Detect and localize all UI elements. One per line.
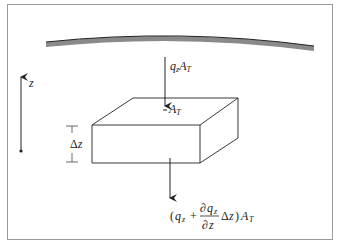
svg-text:z: z — [213, 207, 218, 216]
svg-text:T: T — [249, 215, 254, 224]
svg-text:z: z — [181, 215, 186, 224]
svg-text:q: q — [175, 209, 181, 223]
svg-text:z: z — [228, 209, 234, 223]
z-axis-label: z — [28, 76, 34, 90]
svg-text:z: z — [208, 218, 214, 232]
svg-text:(: ( — [170, 209, 174, 223]
thickness-label: Δz — [70, 137, 83, 151]
control-volume-box — [92, 98, 238, 163]
top-face-area-label: AT — [168, 102, 181, 117]
svg-text:q: q — [207, 201, 213, 215]
svg-text:∂: ∂ — [202, 218, 208, 232]
flux-diagram: qzAT AT z Δz ( q z + ∂ q z ∂ z Δ z — [0, 0, 340, 248]
svg-text:): ) — [235, 209, 239, 223]
svg-text:+: + — [190, 209, 197, 223]
bottom-flux-label: ( q z + ∂ q z ∂ z Δ z ) A T — [170, 201, 254, 232]
svg-text:A: A — [240, 209, 249, 223]
ground-surface — [46, 36, 314, 51]
top-flux-label: qzAT — [170, 59, 191, 74]
origin-dot — [19, 149, 22, 152]
svg-text:∂: ∂ — [200, 201, 206, 215]
svg-text:Δ: Δ — [221, 209, 229, 223]
